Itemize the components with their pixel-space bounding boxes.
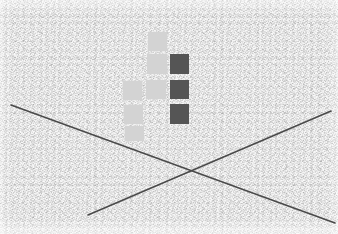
background-edge-fade bbox=[0, 0, 338, 234]
dark-square-middle bbox=[170, 80, 189, 99]
light-square-bottom bbox=[125, 126, 144, 141]
light-square-top bbox=[148, 32, 167, 51]
light-square-left-lower bbox=[124, 105, 143, 124]
dark-square-top bbox=[170, 54, 189, 74]
dark-square-bottom bbox=[170, 104, 189, 124]
light-square-left-center bbox=[123, 81, 142, 100]
light-square-upper-middle bbox=[147, 54, 167, 74]
light-square-center bbox=[146, 80, 166, 99]
image-canvas bbox=[0, 0, 338, 234]
